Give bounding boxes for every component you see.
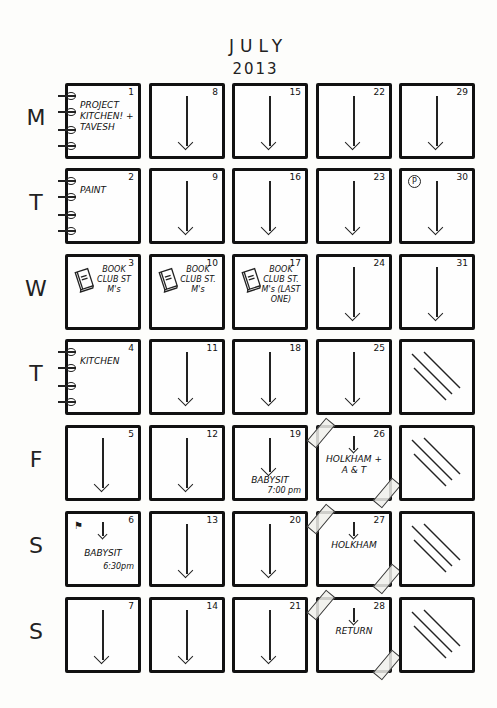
date-number: 30 bbox=[457, 172, 468, 182]
date-number: 28 bbox=[374, 601, 385, 611]
calendar-cell: 31 bbox=[399, 254, 475, 330]
tape-corner bbox=[373, 564, 401, 595]
calendar-cell: 14 bbox=[149, 597, 225, 673]
calendar-cell: 20 bbox=[232, 511, 308, 587]
book-icon bbox=[158, 267, 178, 291]
calendar-cell: 2PAINT bbox=[65, 168, 141, 244]
date-number: 25 bbox=[374, 343, 385, 353]
spiral-binding-icon bbox=[58, 108, 78, 116]
spiral-binding-icon bbox=[58, 227, 78, 235]
crossed-out-hatch bbox=[402, 600, 472, 670]
calendar-cell: 17BOOK CLUB ST. M's (LAST ONE) bbox=[232, 254, 308, 330]
date-number: 23 bbox=[374, 172, 385, 182]
calendar-cell: 11 bbox=[149, 339, 225, 415]
date-number: 11 bbox=[207, 343, 218, 353]
spiral-binding-icon bbox=[58, 364, 78, 372]
date-number: 15 bbox=[290, 87, 301, 97]
tape-corner bbox=[373, 478, 401, 509]
month-title: JULY bbox=[0, 36, 497, 56]
date-number: 12 bbox=[207, 429, 218, 439]
event-note: KITCHEN bbox=[80, 356, 134, 367]
date-number: 1 bbox=[128, 87, 134, 97]
calendar-cell: 24 bbox=[316, 254, 392, 330]
date-number: 5 bbox=[128, 429, 134, 439]
date-number: 20 bbox=[290, 515, 301, 525]
event-note: PAINT bbox=[80, 185, 134, 196]
event-note: BABYSIT bbox=[72, 548, 134, 559]
calendar-cell: 9 bbox=[149, 168, 225, 244]
spiral-binding-icon bbox=[58, 177, 78, 185]
calendar-cell: 21 bbox=[232, 597, 308, 673]
date-number: 4 bbox=[128, 343, 134, 353]
calendar-cell: 7 bbox=[65, 597, 141, 673]
spiral-binding-icon bbox=[58, 398, 78, 406]
day-label: T bbox=[24, 361, 48, 386]
day-label: S bbox=[24, 619, 48, 644]
date-number: 27 bbox=[374, 515, 385, 525]
calendar-cell: 6BABYSIT6:30pm⚑ bbox=[65, 511, 141, 587]
event-note: HOLKHAM + A & T bbox=[323, 454, 385, 476]
date-number: 2 bbox=[128, 172, 134, 182]
date-number: 21 bbox=[290, 601, 301, 611]
event-note: BOOK CLUB ST. M's bbox=[176, 265, 220, 295]
day-label: T bbox=[24, 190, 48, 215]
spiral-binding-icon bbox=[58, 126, 78, 134]
crossed-out-hatch bbox=[402, 428, 472, 498]
date-number: 14 bbox=[207, 601, 218, 611]
date-number: 29 bbox=[457, 87, 468, 97]
calendar-cell: 8 bbox=[149, 83, 225, 159]
event-note: BOOK CLUB ST. M's (LAST ONE) bbox=[259, 265, 303, 305]
date-number: 16 bbox=[290, 172, 301, 182]
calendar-cell: 10BOOK CLUB ST. M's bbox=[149, 254, 225, 330]
date-number: 31 bbox=[457, 258, 468, 268]
calendar-cell: 23 bbox=[316, 168, 392, 244]
book-icon bbox=[74, 267, 94, 291]
tape-corner bbox=[307, 590, 335, 621]
pin-icon: ⚑ bbox=[74, 520, 83, 531]
calendar-cell: 1PROJECT KITCHEN! + TAVESH bbox=[65, 83, 141, 159]
calendar-cell: 26HOLKHAM + A & T bbox=[316, 425, 392, 501]
calendar-cell: 19BABYSIT7:00 pm bbox=[232, 425, 308, 501]
spiral-binding-icon bbox=[58, 193, 78, 201]
calendar-cell: 3BOOK CLUB ST M's bbox=[65, 254, 141, 330]
date-number: 22 bbox=[374, 87, 385, 97]
tape-corner bbox=[373, 650, 401, 681]
calendar-cell: 5 bbox=[65, 425, 141, 501]
event-note: BOOK CLUB ST M's bbox=[92, 265, 136, 295]
crossed-out-hatch bbox=[402, 514, 472, 584]
calendar-cell-empty bbox=[399, 511, 475, 587]
calendar-cell: 28RETURN bbox=[316, 597, 392, 673]
calendar-cell-empty bbox=[399, 425, 475, 501]
date-number: 24 bbox=[374, 258, 385, 268]
date-number: 8 bbox=[212, 87, 218, 97]
calendar-cell: 15 bbox=[232, 83, 308, 159]
day-label: W bbox=[24, 276, 48, 301]
date-number: 7 bbox=[128, 601, 134, 611]
parking-badge-icon: P bbox=[408, 175, 421, 188]
date-number: 18 bbox=[290, 343, 301, 353]
calendar-cell: 18 bbox=[232, 339, 308, 415]
calendar-cell: 13 bbox=[149, 511, 225, 587]
calendar-cell-empty bbox=[399, 339, 475, 415]
calendar-cell: 27HOLKHAM bbox=[316, 511, 392, 587]
spiral-binding-icon bbox=[58, 211, 78, 219]
calendar-cell: 29 bbox=[399, 83, 475, 159]
calendar-cell: 4KITCHEN bbox=[65, 339, 141, 415]
calendar-cell-empty bbox=[399, 597, 475, 673]
event-note: RETURN bbox=[323, 626, 385, 637]
event-time: 6:30pm bbox=[103, 561, 134, 572]
day-label: F bbox=[24, 447, 48, 472]
calendar-cell: 22 bbox=[316, 83, 392, 159]
spiral-binding-icon bbox=[58, 382, 78, 390]
spiral-binding-icon bbox=[58, 142, 78, 150]
event-note: PROJECT KITCHEN! + TAVESH bbox=[80, 100, 134, 133]
book-icon bbox=[241, 267, 261, 291]
date-number: 19 bbox=[290, 429, 301, 439]
day-label: M bbox=[24, 105, 48, 130]
calendar-cell: 12 bbox=[149, 425, 225, 501]
spiral-binding-icon bbox=[58, 92, 78, 100]
day-label: S bbox=[24, 533, 48, 558]
event-note: HOLKHAM bbox=[323, 540, 385, 551]
tape-corner bbox=[307, 504, 335, 535]
calendar-cell: 30P bbox=[399, 168, 475, 244]
